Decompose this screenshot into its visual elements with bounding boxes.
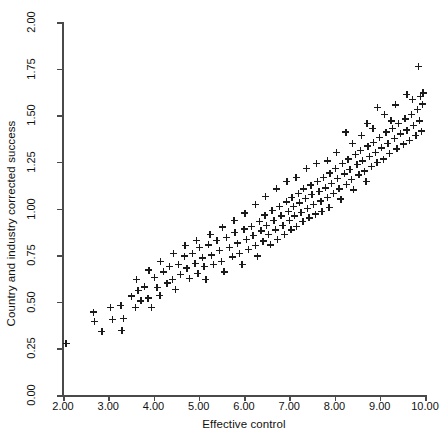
data-point [359, 157, 366, 164]
y-tick-label: 2.00 [25, 2, 37, 42]
data-point [166, 263, 173, 270]
data-point [333, 149, 340, 156]
data-point [213, 237, 220, 244]
data-point [332, 165, 339, 172]
data-point [313, 160, 320, 167]
y-tick-label: 1.25 [25, 142, 37, 182]
data-point [154, 284, 161, 291]
x-tick-label: 2.00 [40, 400, 86, 412]
data-point [420, 89, 427, 96]
data-point [208, 252, 215, 259]
data-point [267, 241, 274, 248]
data-point [350, 186, 357, 193]
data-point [157, 258, 164, 265]
data-point [194, 270, 201, 277]
data-point [207, 231, 214, 238]
data-point [252, 201, 259, 208]
data-point [418, 128, 425, 135]
data-point [241, 210, 248, 217]
y-tick-label: 0.75 [25, 235, 37, 275]
data-point [172, 286, 179, 293]
data-point [210, 261, 217, 268]
data-point [346, 166, 353, 173]
data-point [263, 222, 270, 229]
data-point [170, 250, 177, 257]
data-point [90, 309, 97, 316]
data-point [193, 237, 200, 244]
data-point [137, 297, 144, 304]
x-tick-label: 8.00 [312, 400, 358, 412]
data-point [231, 217, 238, 224]
x-tick-label: 9.00 [357, 400, 403, 412]
data-point [234, 240, 241, 247]
y-tick-label: 0.25 [25, 328, 37, 368]
data-point [216, 247, 223, 254]
data-point [386, 150, 393, 157]
y-tick-mark [57, 22, 63, 24]
data-point [348, 176, 355, 183]
data-point [256, 218, 263, 225]
data-point [345, 156, 352, 163]
y-tick-label: 1.50 [25, 95, 37, 135]
y-tick-label: 1.75 [25, 49, 37, 89]
x-tick-label: 7.00 [266, 400, 312, 412]
data-point [274, 236, 281, 243]
data-point [221, 268, 228, 275]
data-point [229, 253, 236, 260]
data-point [254, 253, 261, 260]
y-tick-mark [57, 69, 63, 71]
x-tick-label: 4.00 [131, 400, 177, 412]
y-tick-mark [57, 209, 63, 211]
data-point [334, 175, 341, 182]
data-point [300, 185, 307, 192]
data-point [186, 275, 193, 282]
data-point [201, 263, 208, 270]
y-axis-label: Country and industry corrected success [0, 0, 22, 447]
x-tick-label: 3.00 [85, 400, 131, 412]
data-point [363, 178, 370, 185]
data-point [324, 157, 331, 164]
data-point [248, 223, 255, 230]
data-point [265, 231, 272, 238]
data-point [205, 241, 212, 248]
data-point [415, 63, 422, 70]
data-point [118, 327, 125, 334]
data-point [303, 165, 310, 172]
data-point [349, 140, 356, 147]
data-point [192, 260, 199, 267]
data-point [239, 261, 246, 268]
data-point [310, 201, 317, 208]
data-point [145, 295, 152, 302]
data-point [98, 328, 105, 335]
x-tick-label: 10.00 [402, 400, 448, 412]
data-point [392, 101, 399, 108]
data-point [269, 207, 276, 214]
data-point [117, 302, 124, 309]
y-tick-mark [57, 115, 63, 117]
data-point [358, 132, 365, 139]
data-point [236, 250, 243, 257]
data-point [250, 232, 257, 239]
data-point [91, 318, 98, 325]
data-point [156, 292, 163, 299]
data-point [183, 265, 190, 272]
plot-area: 0.000.250.500.751.001.251.501.752.00 2.0… [63, 22, 425, 395]
scatter-plot-figure: Country and industry corrected success E… [0, 0, 448, 447]
data-point [177, 271, 184, 278]
data-point [336, 185, 343, 192]
data-point [364, 120, 371, 127]
data-point [308, 191, 315, 198]
x-tick-label: 5.00 [176, 400, 222, 412]
data-point [241, 226, 248, 233]
data-point [133, 276, 140, 283]
data-point [252, 242, 259, 249]
data-point [223, 234, 230, 241]
data-point [293, 174, 300, 181]
x-tick-label: 6.00 [221, 400, 267, 412]
data-point [189, 250, 196, 257]
data-point [107, 304, 114, 311]
data-point [278, 212, 285, 219]
data-point [151, 274, 158, 281]
data-point [196, 244, 203, 251]
data-point [260, 238, 267, 245]
